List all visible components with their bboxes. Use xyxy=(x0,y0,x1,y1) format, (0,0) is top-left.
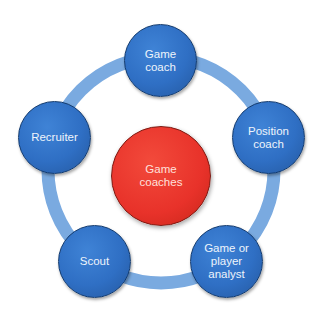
node-label: Position coach xyxy=(248,125,289,151)
node-game-coach: Game coach xyxy=(124,24,197,97)
node-position-coach: Position coach xyxy=(232,101,305,174)
node-label: Game coach xyxy=(145,48,176,74)
node-game-or-player-analyst: Game or player analyst xyxy=(190,225,263,298)
node-scout: Scout xyxy=(58,225,131,298)
node-recruiter: Recruiter xyxy=(18,101,91,174)
role-diagram: Game coaches Game coach Position coach G… xyxy=(0,0,327,328)
node-label: Game or player analyst xyxy=(204,242,249,281)
node-label: Scout xyxy=(80,255,109,268)
node-label: Recruiter xyxy=(31,131,78,144)
center-node-game-coaches: Game coaches xyxy=(111,126,211,226)
center-node-label: Game coaches xyxy=(140,163,183,189)
